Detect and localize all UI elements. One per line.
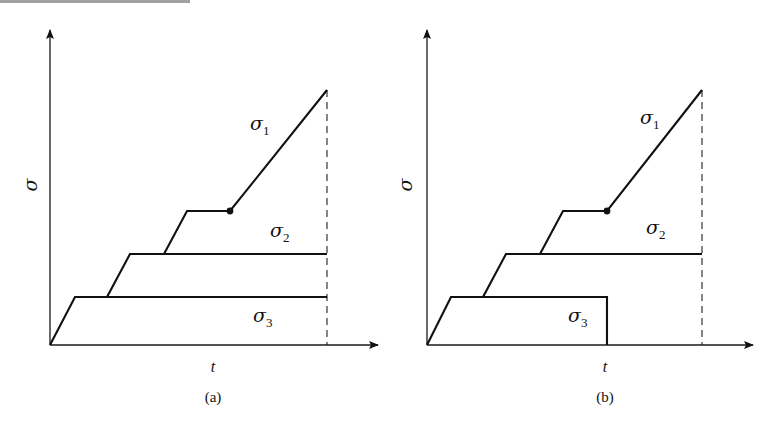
y-axis-label-a: σ	[19, 177, 41, 191]
sigma3-label-a: σ3	[253, 304, 272, 330]
sigma3-path-a	[50, 297, 327, 345]
y-axis-label-b: σ	[394, 177, 416, 191]
sigma1-label-a: σ1	[250, 112, 269, 138]
sigma2-label-b: σ2	[646, 216, 665, 242]
sigma2-path-b	[483, 254, 702, 297]
hold-point-marker-a	[227, 208, 234, 215]
cropped-header-text	[0, 0, 190, 3]
caption-b: (b)	[596, 389, 614, 406]
panel-a: σ t σ1 σ2 σ3 (a)	[19, 30, 378, 406]
sigma3-label-b: σ3	[568, 304, 587, 330]
panel-b: σ t σ1 σ2 σ3 (b)	[394, 30, 753, 406]
sigma1-path-a	[164, 90, 327, 254]
sigma1-path-b	[540, 90, 702, 254]
sigma2-label-a: σ2	[270, 219, 289, 245]
x-axis-label-a: t	[211, 358, 216, 375]
hold-point-marker-b	[604, 208, 611, 215]
stress-path-diagram: σ t σ1 σ2 σ3 (a) σ t σ1 σ2	[0, 0, 769, 426]
svg-text:σ: σ	[394, 177, 416, 191]
sigma1-label-b: σ1	[640, 106, 659, 132]
sigma2-path-a	[107, 254, 327, 297]
caption-a: (a)	[205, 389, 222, 406]
svg-text:σ: σ	[19, 177, 41, 191]
x-axis-label-b: t	[603, 358, 608, 375]
